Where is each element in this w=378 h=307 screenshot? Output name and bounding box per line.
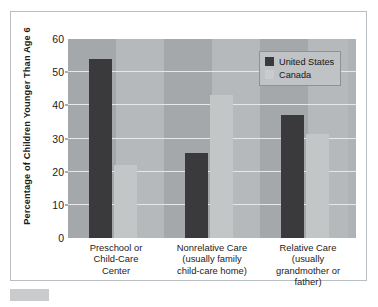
x-axis-label-line: child-care home) <box>164 265 260 276</box>
x-axis-labels: Preschool orChild-CareCenterNonrelative … <box>68 242 356 294</box>
bar-us-1 <box>185 153 209 238</box>
chart-legend: United StatesCanada <box>259 51 341 86</box>
x-axis-label-1: Nonrelative Care(usually familychild-car… <box>164 242 260 294</box>
x-axis-label-line: Child-Care <box>68 253 164 264</box>
y-axis-title: Percentage of Children Younger Than Age … <box>18 26 36 226</box>
y-axis-tick-label: 30 <box>36 133 64 145</box>
bar-us-2 <box>281 115 305 238</box>
y-axis-tick-label: 10 <box>36 199 64 211</box>
bar-ca-2 <box>306 134 330 238</box>
bar-ca-0 <box>114 165 138 238</box>
x-axis-label-line: Preschool or <box>68 242 164 253</box>
y-axis: 0102030405060 <box>35 39 68 238</box>
y-axis-tick-label: 60 <box>36 33 64 45</box>
x-axis-label-line: (usually <box>260 253 356 264</box>
x-axis-label-line: grandmother or <box>260 265 356 276</box>
y-axis-tick-label: 20 <box>36 166 64 178</box>
legend-item-ca: Canada <box>265 68 334 81</box>
bar-ca-1 <box>210 95 234 238</box>
plot-band <box>348 39 356 238</box>
x-axis-label-0: Preschool orChild-CareCenter <box>68 242 164 294</box>
x-axis-label-line: Relative Care <box>260 242 356 253</box>
legend-label: Canada <box>279 70 311 80</box>
x-axis-label-line: father) <box>260 276 356 287</box>
x-axis-label-line: Center <box>68 265 164 276</box>
y-axis-tick-label: 40 <box>36 99 64 111</box>
x-axis-label-line: (usually family <box>164 253 260 264</box>
page-artifact-block <box>10 289 49 301</box>
legend-item-us: United States <box>265 55 334 68</box>
x-axis-label-2: Relative Care(usuallygrandmother orfathe… <box>260 242 356 294</box>
legend-label: United States <box>279 57 334 67</box>
chart-figure-frame: Percentage of Children Younger Than Age … <box>10 11 367 281</box>
bar-us-0 <box>89 59 113 238</box>
legend-swatch-ca-icon <box>265 70 274 79</box>
x-axis-label-line: Nonrelative Care <box>164 242 260 253</box>
y-axis-tick-label: 50 <box>36 66 64 78</box>
y-axis-tick-label: 0 <box>36 232 64 244</box>
legend-swatch-us-icon <box>265 57 274 66</box>
